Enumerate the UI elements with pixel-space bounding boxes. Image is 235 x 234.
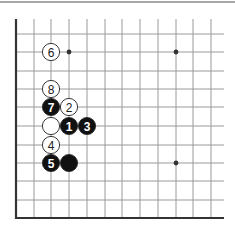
black-stone-1: 1 bbox=[60, 117, 77, 134]
white-stone bbox=[42, 117, 59, 134]
black-stone-7: 7 bbox=[42, 98, 59, 115]
move-number-label: 3 bbox=[84, 120, 91, 134]
move-number-label: 4 bbox=[48, 139, 55, 153]
white-stone-6: 6 bbox=[42, 43, 59, 60]
white-stone-8: 8 bbox=[42, 80, 59, 97]
black-stone bbox=[60, 154, 77, 171]
star-point-icon bbox=[67, 50, 72, 55]
white-stone-4: 4 bbox=[42, 136, 59, 153]
star-point-icon bbox=[174, 50, 179, 55]
black-stone-icon bbox=[60, 154, 77, 171]
black-stone-5: 5 bbox=[42, 154, 59, 171]
move-number-label: 1 bbox=[66, 120, 73, 134]
move-number-label: 7 bbox=[48, 101, 55, 115]
move-number-label: 2 bbox=[66, 101, 73, 115]
move-number-label: 8 bbox=[48, 83, 55, 97]
white-stone-icon bbox=[42, 117, 59, 134]
move-number-label: 5 bbox=[48, 157, 55, 171]
move-number-label: 6 bbox=[48, 46, 55, 60]
white-stone-2: 2 bbox=[60, 98, 77, 115]
black-stone-3: 3 bbox=[78, 117, 95, 134]
go-board: 68721345 bbox=[0, 0, 235, 234]
star-point-icon bbox=[174, 161, 179, 166]
